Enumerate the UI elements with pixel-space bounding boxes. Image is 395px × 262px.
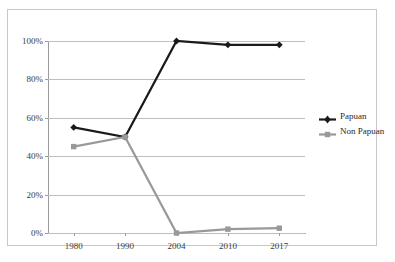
series-line [74, 137, 280, 233]
x-tick-mark [74, 233, 75, 236]
y-tick-label: 40% [27, 152, 44, 161]
y-tick-label: 0% [31, 229, 43, 238]
data-point-diamond [276, 41, 283, 48]
chart-legend: Papuan Non Papuan [319, 109, 381, 139]
figure-frame: 0%20%40%60%80%100% 19801990200420102017 … [7, 9, 377, 246]
y-tick-label: 100% [22, 37, 43, 46]
x-tick-label: 2017 [270, 242, 288, 251]
data-point-square [225, 226, 230, 231]
data-point-square [122, 134, 127, 139]
y-tick-label: 80% [27, 75, 44, 84]
data-point-diamond [225, 41, 232, 48]
legend-marker-diamond-icon [319, 111, 336, 122]
data-point-square [71, 144, 76, 149]
x-tick-mark [177, 233, 178, 236]
legend-item-papuan[interactable]: Papuan [319, 109, 381, 124]
x-tick-mark [125, 233, 126, 236]
x-tick-label: 2004 [168, 242, 186, 251]
series-non-papuan [71, 134, 282, 235]
y-tick-mark [45, 233, 48, 234]
x-tick-mark [279, 233, 280, 236]
series-line [74, 41, 280, 137]
data-point-square [277, 226, 282, 231]
series-papuan [70, 38, 282, 141]
x-tick-label: 1990 [116, 242, 134, 251]
data-series-layer [48, 41, 305, 233]
data-point-diamond [70, 124, 77, 131]
plot-area: 0%20%40%60%80%100% [48, 41, 305, 233]
x-tick-label: 2010 [219, 242, 237, 251]
y-tick-label: 60% [27, 113, 44, 122]
x-tick-mark [228, 233, 229, 236]
chart-container: 0%20%40%60%80%100% 19801990200420102017 … [0, 0, 395, 262]
legend-marker-square-icon [319, 126, 336, 137]
legend-label-non-papuan: Non Papuan [340, 127, 384, 136]
y-tick-label: 20% [27, 190, 44, 199]
legend-item-non-papuan[interactable]: Non Papuan [319, 124, 381, 139]
legend-label-papuan: Papuan [340, 112, 367, 121]
x-tick-label: 1980 [65, 242, 83, 251]
